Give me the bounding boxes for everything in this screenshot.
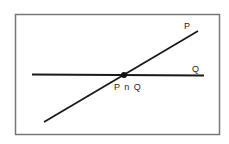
- intersection-point: [121, 72, 127, 78]
- label-intersection: P n Q: [114, 82, 142, 92]
- line-q: [32, 75, 204, 76]
- diagram-canvas: P Q P n Q: [0, 0, 229, 144]
- label-q: Q: [192, 64, 199, 74]
- label-p: P: [184, 21, 190, 31]
